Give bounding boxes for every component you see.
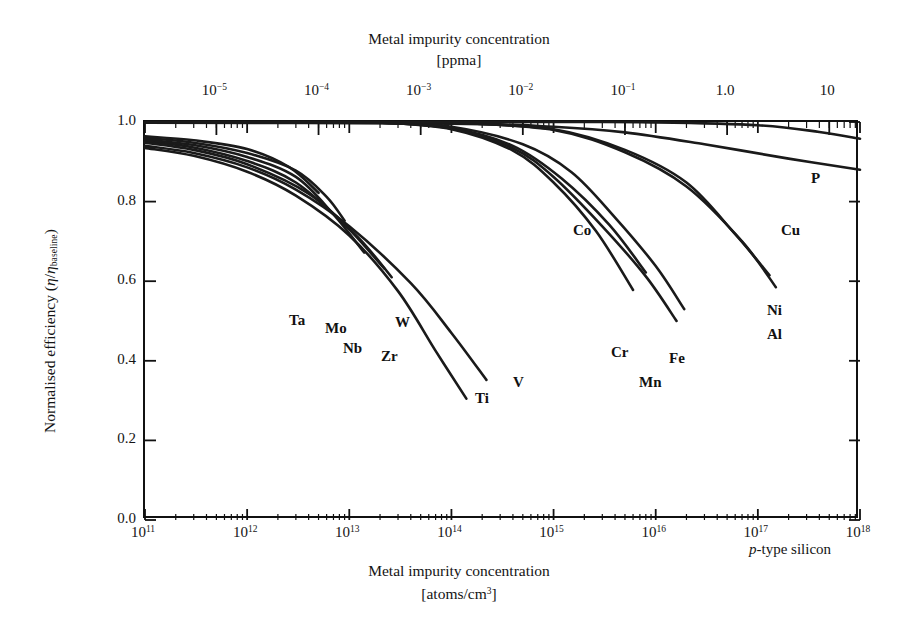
curve-label-Cr: Cr xyxy=(611,344,629,361)
ppma-tick-label-5: 1.0 xyxy=(716,82,735,99)
y-tick-label-0.6: 0.6 xyxy=(96,271,136,288)
y-axis-title-pre: Normalised efficiency ( xyxy=(41,286,58,433)
bottom-axis-unit-post: ] xyxy=(492,585,497,602)
curve-V xyxy=(145,146,486,380)
x-tick-label-1015: 1015 xyxy=(539,524,564,541)
x-tick-label-1018: 1018 xyxy=(846,524,871,541)
curves-canvas xyxy=(145,122,860,520)
y-tick-label-0.8: 0.8 xyxy=(96,191,136,208)
ppma-tick-label-6: 10 xyxy=(820,82,835,99)
curve-Zr xyxy=(145,141,384,268)
y-tick-label-0.2: 0.2 xyxy=(96,430,136,447)
annotation-p-type-silicon: p-type silicon xyxy=(749,541,831,558)
y-tick-label-1.0: 1.0 xyxy=(96,112,136,129)
curve-label-Co: Co xyxy=(573,222,591,239)
y-tick-label-0.4: 0.4 xyxy=(96,350,136,367)
top-axis-title: Metal impurity concentration [ppma] xyxy=(0,28,918,70)
annotation-italic-p: p xyxy=(749,541,757,557)
curve-label-W: W xyxy=(395,314,410,331)
x-tick-label-1011: 1011 xyxy=(131,524,155,541)
curve-Cr xyxy=(380,122,633,290)
curve-label-Cu: Cu xyxy=(781,222,800,239)
bottom-axis-title-text: Metal impurity concentration xyxy=(368,562,550,579)
bottom-axis-title: Metal impurity concentration [atoms/cm3] xyxy=(0,560,918,604)
x-tick-label-1014: 1014 xyxy=(437,524,462,541)
curve-label-Ta: Ta xyxy=(289,312,305,329)
x-tick-label-1016: 1016 xyxy=(641,524,666,541)
data-curves xyxy=(145,122,860,399)
figure-root: Metal impurity concentration [ppma] 10−5… xyxy=(0,0,918,635)
eta-symbol: η xyxy=(41,278,58,286)
top-axis-title-text: Metal impurity concentration xyxy=(368,30,550,47)
bottom-axis-unit: [atoms/cm3] xyxy=(0,581,918,604)
curve-label-P: P xyxy=(811,170,820,187)
bottom-axis-unit-pre: [atoms/cm xyxy=(421,585,486,602)
x-tick-label-1013: 1013 xyxy=(335,524,360,541)
curve-label-Zr: Zr xyxy=(381,348,398,365)
curve-label-Mn: Mn xyxy=(639,374,662,391)
x-tick-label-1017: 1017 xyxy=(744,524,769,541)
curve-label-Ni: Ni xyxy=(767,302,782,319)
y-axis-title-post: ) xyxy=(41,229,58,234)
baseline-subscript: baseline xyxy=(49,234,59,266)
curve-label-Mo: Mo xyxy=(325,320,347,337)
ppma-tick-label-2: 10−3 xyxy=(406,82,431,99)
curve-Fe xyxy=(380,122,684,309)
curve-label-V: V xyxy=(513,374,524,391)
ppma-tick-label-4: 10−1 xyxy=(610,82,635,99)
slash: / xyxy=(41,274,58,278)
curve-label-Fe: Fe xyxy=(669,350,685,367)
curve-label-Nb: Nb xyxy=(343,340,362,357)
curve-label-Al: Al xyxy=(767,326,782,343)
eta-baseline-symbol: η xyxy=(41,266,58,274)
curve-label-Ti: Ti xyxy=(475,390,489,407)
annotation-rest: -type silicon xyxy=(757,541,832,557)
ppma-tick-label-3: 10−2 xyxy=(508,82,533,99)
top-axis-unit: [ppma] xyxy=(0,49,918,70)
plot-area: TaMoNbZrWTiVCoCrFeMnNiAlCuP p-type silic… xyxy=(143,120,858,518)
x-tick-label-1012: 1012 xyxy=(233,524,258,541)
ppma-tick-label-1: 10−4 xyxy=(304,82,329,99)
axis-ticks xyxy=(145,122,860,520)
y-axis-title: Normalised efficiency (η/ηbaseline) xyxy=(41,161,63,501)
ppma-tick-label-0: 10−5 xyxy=(202,82,227,99)
